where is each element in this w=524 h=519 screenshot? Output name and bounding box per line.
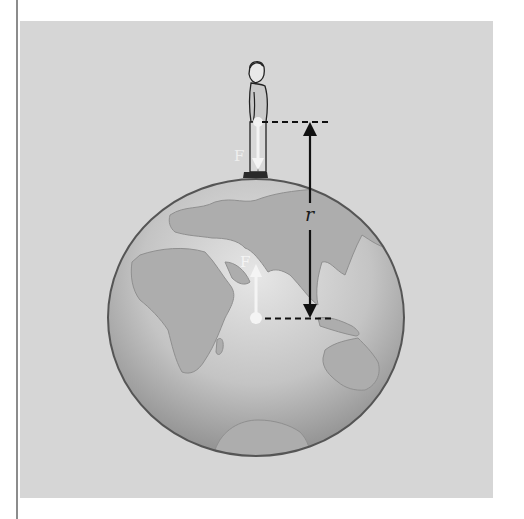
r-label: r	[305, 203, 314, 225]
madagascar-island	[216, 338, 223, 354]
force-on-earth-label: F	[240, 253, 250, 271]
figure-canvas	[0, 0, 524, 519]
force-on-person-label: F	[234, 147, 244, 165]
